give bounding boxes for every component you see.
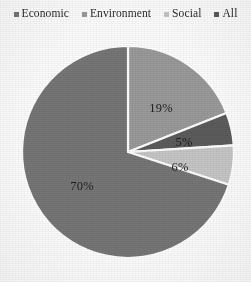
- legend-item-label: Environment: [90, 8, 151, 20]
- square-marker-icon: [214, 12, 219, 17]
- slice-data-label: 19%: [149, 102, 173, 115]
- legend-item[interactable]: Economic: [14, 8, 69, 20]
- slice-data-label: 70%: [70, 180, 94, 193]
- square-marker-icon: [82, 12, 87, 17]
- slice-data-label: 5%: [175, 136, 192, 149]
- legend-item-label: All: [222, 8, 237, 20]
- square-marker-icon: [14, 12, 19, 17]
- square-marker-icon: [164, 12, 169, 17]
- pie-chart-figure: EconomicEnvironmentSocialAll 19%5%6%70%: [0, 0, 251, 282]
- legend-item[interactable]: Social: [164, 8, 201, 20]
- slice-data-label: 6%: [171, 161, 188, 174]
- legend-item-label: Economic: [22, 8, 69, 20]
- legend-item-label: Social: [172, 8, 201, 20]
- pie-svg: [0, 26, 251, 282]
- chart-plot-area: 19%5%6%70%: [0, 26, 251, 282]
- legend-item[interactable]: Environment: [82, 8, 151, 20]
- chart-legend: EconomicEnvironmentSocialAll: [0, 0, 251, 26]
- legend-item[interactable]: All: [214, 8, 237, 20]
